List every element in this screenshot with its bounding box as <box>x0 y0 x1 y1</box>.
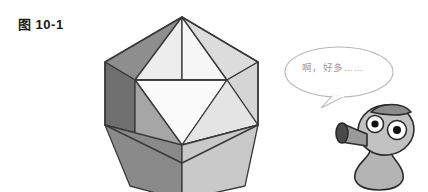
peashooter-svg <box>331 98 428 192</box>
icosahedron-svg <box>95 0 275 192</box>
character-muzzle-opening <box>336 123 348 143</box>
peashooter-character <box>331 98 428 192</box>
icosahedron-illustration <box>95 0 275 192</box>
figure-caption: 图 10-1 <box>18 18 64 31</box>
speech-bubble-text: 啊，好多…… <box>302 62 382 73</box>
figure-page: 图 10-1 <box>0 0 428 192</box>
character-right-pupil <box>393 126 401 134</box>
character-left-pupil <box>371 120 378 127</box>
